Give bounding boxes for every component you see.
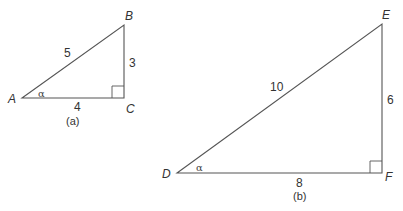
side-label-opposite-b: 6 — [387, 93, 394, 107]
angle-alpha-label-a: α — [38, 88, 45, 99]
similar-triangles-diagram: A B C 5 3 4 α (a) D E F 10 6 8 α (b) — [0, 0, 403, 211]
side-label-adjacent-b: 8 — [296, 176, 303, 190]
right-angle-marker-c — [112, 86, 124, 98]
vertex-label-d: D — [162, 167, 171, 181]
side-label-adjacent-a: 4 — [74, 100, 81, 114]
vertex-label-a: A — [7, 92, 16, 106]
vertex-label-c: C — [126, 102, 135, 116]
right-angle-marker-f — [370, 161, 382, 173]
caption-b: (b) — [293, 190, 306, 202]
triangle-a: A B C 5 3 4 α (a) — [7, 9, 136, 127]
side-label-hypotenuse-a: 5 — [64, 46, 71, 60]
triangle-b: D E F 10 6 8 α (b) — [162, 8, 394, 202]
side-label-opposite-a: 3 — [129, 56, 136, 70]
vertex-label-b: B — [125, 9, 133, 23]
triangle-b-outline — [177, 24, 382, 173]
caption-a: (a) — [66, 115, 79, 127]
angle-alpha-label-b: α — [196, 162, 203, 173]
vertex-label-e: E — [382, 8, 391, 22]
side-label-hypotenuse-b: 10 — [270, 80, 284, 94]
vertex-label-f: F — [385, 170, 393, 184]
